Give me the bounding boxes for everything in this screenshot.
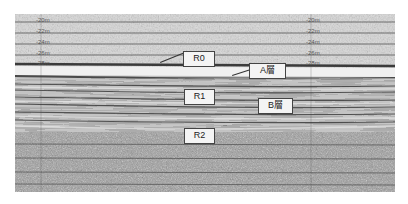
depth-label-right-0: -20m: [306, 17, 320, 23]
depth-label-left-2: -24m: [36, 39, 50, 45]
depth-label-right-1: -22m: [306, 28, 320, 34]
annotation-r1: R1: [184, 89, 215, 105]
depth-label-left-4: -28m: [36, 60, 50, 66]
annotation-r2: R2: [184, 128, 215, 144]
depth-label-left-1: -22m: [36, 28, 50, 34]
annotation-b-layer: B層: [258, 98, 293, 114]
depth-label-left-0: -20m: [36, 17, 50, 23]
depth-label-right-4: -28m: [306, 60, 320, 66]
depth-label-right-2: -24m: [306, 39, 320, 45]
annotation-a-layer: A層: [249, 63, 286, 79]
depth-label-left-3: -26m: [36, 50, 50, 56]
depth-label-right-3: -26m: [306, 50, 320, 56]
annotation-r0: R0: [183, 51, 215, 67]
